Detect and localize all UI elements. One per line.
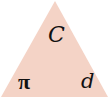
label-diameter: d xyxy=(81,71,94,92)
label-circumference: C xyxy=(48,24,65,46)
label-pi: π xyxy=(18,71,30,93)
